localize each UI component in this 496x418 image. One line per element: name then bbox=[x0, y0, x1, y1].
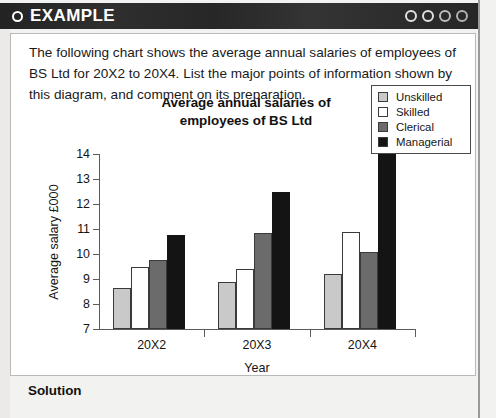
y-tick-label: 10 bbox=[76, 247, 90, 261]
x-axis-end-tick bbox=[415, 329, 416, 337]
y-tick-label: 12 bbox=[76, 197, 90, 211]
legend-item: Managerial bbox=[378, 135, 465, 149]
bar-chart: Average annual salaries of employees of … bbox=[11, 34, 477, 377]
example-header-bar: EXAMPLE bbox=[0, 3, 478, 29]
bar-managerial-20x3 bbox=[272, 192, 290, 330]
legend-swatch-icon bbox=[378, 122, 388, 132]
y-tick-mark bbox=[93, 204, 100, 205]
header-dots bbox=[405, 10, 468, 22]
y-tick-mark bbox=[93, 304, 100, 305]
y-tick-label: 11 bbox=[77, 222, 90, 236]
chart-title-line-2: employees of BS Ltd bbox=[180, 113, 312, 128]
bar-managerial-20x4 bbox=[378, 154, 396, 329]
y-tick-label: 14 bbox=[76, 147, 90, 161]
legend-item: Clerical bbox=[378, 120, 465, 134]
x-axis-line bbox=[99, 329, 416, 330]
plot-area: 789101112131420X220X320X4 bbox=[99, 154, 415, 329]
y-tick-label: 8 bbox=[83, 297, 90, 311]
chart-title-line-1: Average annual salaries of bbox=[161, 95, 330, 110]
page-right-edge bbox=[478, 0, 480, 418]
legend-label: Unskilled bbox=[396, 91, 442, 103]
circle-icon bbox=[422, 10, 434, 22]
example-page: EXAMPLE The following chart shows the av… bbox=[0, 0, 496, 418]
bar-unskilled-20x4 bbox=[324, 274, 342, 329]
circle-icon bbox=[405, 10, 417, 22]
legend-swatch-icon bbox=[378, 107, 388, 117]
legend-swatch-icon bbox=[378, 92, 388, 102]
legend-swatch-icon bbox=[378, 137, 388, 147]
x-axis-title: Year bbox=[99, 361, 415, 375]
legend-label: Managerial bbox=[396, 136, 452, 148]
x-axis-category-label: 20X4 bbox=[348, 338, 377, 352]
legend-label: Clerical bbox=[396, 121, 434, 133]
header-title: EXAMPLE bbox=[30, 6, 115, 26]
bar-clerical-20x4 bbox=[360, 252, 378, 330]
y-tick-label: 13 bbox=[76, 172, 90, 186]
bar-clerical-20x2 bbox=[149, 260, 167, 329]
bar-skilled-20x4 bbox=[342, 232, 360, 330]
y-tick-mark bbox=[93, 179, 100, 180]
bar-skilled-20x3 bbox=[236, 269, 254, 329]
x-axis-category-label: 20X3 bbox=[243, 338, 272, 352]
chart-title: Average annual salaries of employees of … bbox=[121, 94, 371, 130]
bar-managerial-20x2 bbox=[167, 235, 185, 329]
y-tick-mark bbox=[93, 329, 100, 330]
page-margin bbox=[0, 29, 10, 418]
circle-icon bbox=[456, 10, 468, 22]
y-axis-title: Average salary £000 bbox=[47, 154, 63, 330]
bar-unskilled-20x2 bbox=[113, 288, 131, 329]
legend-item: Skilled bbox=[378, 105, 465, 119]
y-tick-mark bbox=[93, 154, 100, 155]
x-axis-category-label: 20X2 bbox=[137, 338, 166, 352]
chart-legend: UnskilledSkilledClericalManagerial bbox=[371, 85, 471, 154]
y-tick-label: 9 bbox=[83, 272, 90, 286]
ring-icon bbox=[12, 11, 23, 22]
legend-item: Unskilled bbox=[378, 90, 465, 104]
legend-label: Skilled bbox=[396, 106, 430, 118]
content-panel: The following chart shows the average an… bbox=[10, 33, 476, 376]
y-tick-label: 7 bbox=[83, 322, 90, 336]
circle-icon bbox=[439, 10, 451, 22]
bar-skilled-20x2 bbox=[131, 267, 149, 330]
solution-heading: Solution bbox=[28, 383, 82, 398]
x-axis-group-separator bbox=[204, 329, 205, 337]
y-tick-mark bbox=[93, 254, 100, 255]
bar-unskilled-20x3 bbox=[218, 282, 236, 330]
y-tick-mark bbox=[93, 279, 100, 280]
x-axis-group-separator bbox=[310, 329, 311, 337]
y-tick-mark bbox=[93, 229, 100, 230]
bar-clerical-20x3 bbox=[254, 233, 272, 329]
